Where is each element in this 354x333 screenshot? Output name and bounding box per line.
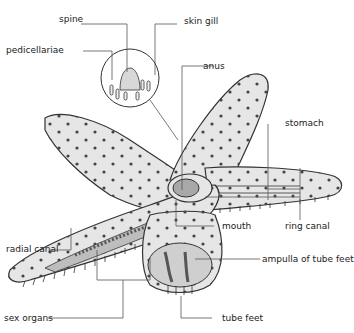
- label-pedicellariae: pedicellariae: [6, 45, 64, 55]
- label-tube-feet: tube feet: [222, 313, 263, 323]
- stomach-organ: [173, 179, 199, 197]
- starfish-diagram: spine skin gill pedicellariae anus stoma…: [0, 0, 354, 333]
- label-mouth: mouth: [222, 221, 251, 231]
- label-radial-canal: radial canal: [6, 244, 59, 254]
- label-sex-organs: sex organs: [4, 313, 53, 323]
- label-ring-canal: ring canal: [285, 221, 330, 231]
- arm-right: [205, 167, 342, 213]
- label-skin-gill: skin gill: [184, 16, 218, 26]
- arm-lower-cross-section: [143, 211, 222, 295]
- label-anus: anus: [203, 61, 225, 71]
- skin-magnification-inset: [101, 49, 178, 140]
- label-ampulla-of-tube-feet: ampulla of tube feet: [262, 254, 354, 264]
- central-disk: [168, 174, 212, 202]
- label-stomach: stomach: [285, 118, 324, 128]
- label-spine: spine: [59, 14, 83, 24]
